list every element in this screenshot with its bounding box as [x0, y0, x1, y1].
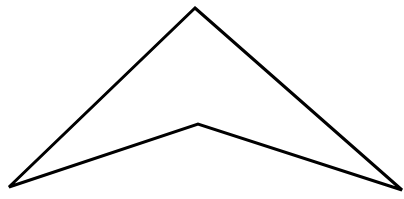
diagram-canvas — [0, 0, 404, 199]
arrowhead-shape — [9, 8, 402, 190]
